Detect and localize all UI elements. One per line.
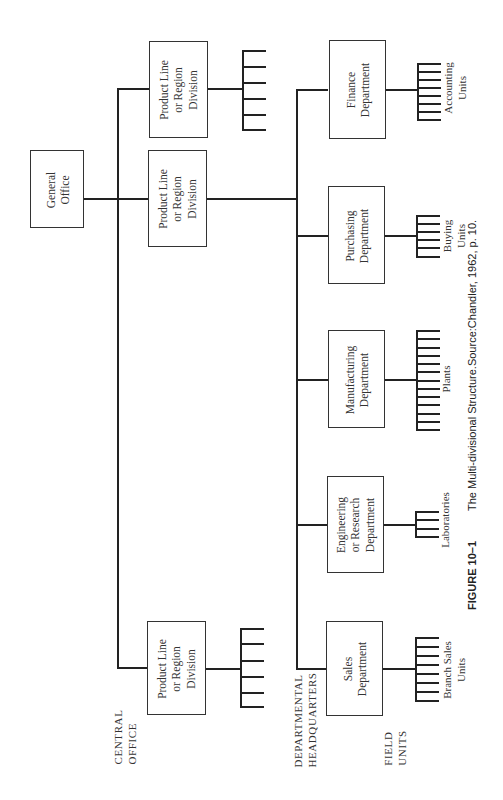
rake-spine	[415, 511, 417, 537]
org-chart: General Office Product Line or Region Di…	[0, 0, 503, 800]
manufacturing-department-box: Manufacturing Department	[328, 330, 385, 428]
level-label-field-units: FIELD UNITS	[382, 730, 410, 765]
connector-engineering	[296, 524, 328, 526]
engineering-department-label: Engineering or Research Department	[334, 497, 377, 553]
purchasing-department-box: Purchasing Department	[328, 186, 385, 284]
accounting-units-label: Accounting Units	[442, 62, 470, 113]
laboratories-label: Laboratories	[439, 492, 453, 548]
rake-spine	[416, 215, 418, 257]
division-spine	[117, 88, 119, 668]
rake-connector	[384, 524, 415, 526]
connector-division-to-depts	[207, 198, 297, 200]
rake-connector	[206, 668, 240, 670]
branch-sales-units-label: Branch Sales Units	[441, 641, 469, 699]
level-label-departmental-hq: DEPARTMENTAL HEADQUARTERS	[292, 672, 320, 767]
connector-division-bottom	[117, 667, 148, 669]
rake-spine	[240, 628, 242, 707]
rake-connector	[383, 668, 415, 670]
division-box-bottom: Product Line or Region Division	[147, 621, 206, 715]
division-label: Product Line or Region Division	[156, 169, 199, 229]
division-box-middle: Product Line or Region Division	[148, 150, 207, 247]
rake-connector	[385, 379, 416, 381]
plants-label: Plants	[440, 366, 454, 393]
rake-spine	[242, 50, 244, 130]
manufacturing-department-label: Manufacturing Department	[343, 346, 372, 414]
figure-number: FIGURE 10–1	[466, 541, 478, 610]
rake-connector	[386, 89, 417, 91]
connector-manufacturing	[296, 379, 328, 381]
purchasing-department-label: Purchasing Department	[343, 209, 372, 263]
division-label: Product Line or Region Division	[157, 60, 200, 120]
engineering-department-box: Engineering or Research Department	[327, 476, 384, 573]
finance-department-box: Finance Department	[329, 40, 386, 139]
sales-department-label: Sales Department	[341, 642, 370, 696]
buying-units-label: Buying Units	[441, 220, 469, 252]
general-office-label: General Office	[44, 172, 73, 208]
division-box-top: Product Line or Region Division	[149, 41, 208, 138]
finance-department-label: Finance Department	[344, 63, 373, 117]
division-label: Product Line or Region Division	[155, 639, 198, 699]
level-label-central-office: CENTRAL OFFICE	[112, 710, 140, 765]
connector-finance	[296, 89, 328, 91]
connector-purchasing	[296, 235, 328, 237]
sales-department-box: Sales Department	[326, 621, 383, 716]
figure-caption: FIGURE 10–1The Multi-divisional Structur…	[466, 220, 480, 610]
connector-division-top	[117, 88, 149, 90]
general-office-box: General Office	[30, 150, 84, 228]
figure-title: The Multi-divisional Structure.Source:Ch…	[466, 220, 478, 511]
connector-sales	[296, 668, 328, 670]
connector-general-to-spine	[84, 198, 148, 200]
rake-connector	[385, 235, 416, 237]
rake-connector	[208, 88, 242, 90]
